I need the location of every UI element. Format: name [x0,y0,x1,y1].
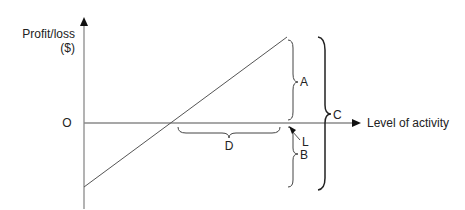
label-l: L [302,135,309,149]
x-axis-label: Level of activity [367,116,449,130]
l-pointer-arrowhead [289,126,296,134]
profit-line [84,37,287,187]
label-c: C [333,108,342,122]
brace-c [318,37,331,190]
brace-a [288,40,298,120]
profit-volume-diagram: Profit/loss ($) O Level of activity A B … [0,0,465,210]
label-b: B [300,148,308,162]
y-axis-label-line2: ($) [60,41,75,55]
y-axis-arrowhead [80,17,88,26]
label-a: A [300,75,308,89]
label-d: D [225,139,234,153]
brace-d [178,127,280,138]
origin-label: O [62,116,71,130]
x-axis-arrowhead [352,119,361,127]
y-axis-label-line1: Profit/loss [22,27,75,41]
